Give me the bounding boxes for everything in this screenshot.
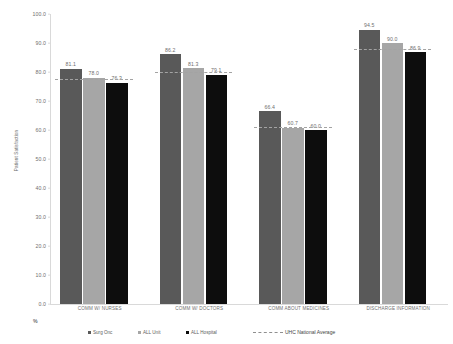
legend-color-swatch (138, 331, 141, 334)
plot-area: 81.178.076.386.281.379.166.460.760.094.5… (50, 14, 448, 304)
bar (259, 111, 281, 304)
bar-group: 81.178.076.3 (50, 14, 150, 304)
bar-chart: Patient Satisfaction 0.010.020.030.040.0… (0, 0, 453, 344)
national-average-reference-line (55, 79, 133, 80)
bar-value-label: 90.0 (378, 36, 408, 42)
bar-value-label: 94.5 (355, 22, 385, 28)
bar-group: 94.590.086.9 (349, 14, 449, 304)
y-axis-tick-label: 10.0 (20, 272, 46, 278)
bar (160, 54, 182, 304)
bar-value-label: 81.3 (179, 61, 209, 67)
x-axis-category-label: COMM W/ DOCTORS (150, 306, 250, 311)
x-axis-category-label: COMM W/ NURSES (50, 306, 150, 311)
national-average-reference-line (254, 127, 332, 128)
bar (60, 69, 82, 304)
legend-label: UHC National Average (285, 329, 335, 335)
national-average-reference-line (155, 72, 233, 73)
bar (382, 43, 404, 304)
x-axis-category-label: DISCHARGE INFORMATION (349, 306, 449, 311)
y-axis-tick-label: 40.0 (20, 185, 46, 191)
bar-value-label: 66.4 (255, 104, 285, 110)
y-axis-tick-label: 20.0 (20, 243, 46, 249)
y-axis-tick-label: 70.0 (20, 98, 46, 104)
bar-group: 86.281.379.1 (150, 14, 250, 304)
bar (183, 68, 205, 304)
y-axis-tick-label: 60.0 (20, 127, 46, 133)
y-axis-tick-label: 90.0 (20, 40, 46, 46)
y-axis-tick-label: 50.0 (20, 156, 46, 162)
bar (206, 75, 228, 304)
bar-value-label: 86.2 (156, 47, 186, 53)
bar (405, 52, 427, 304)
bar-group: 66.460.760.0 (249, 14, 349, 304)
y-axis-tick-label: 100.0 (20, 11, 46, 17)
legend-dashed-line-swatch (253, 332, 283, 333)
bar-value-label: 81.1 (56, 61, 86, 67)
legend-item-national-average[interactable]: UHC National Average (253, 329, 335, 335)
bar (106, 83, 128, 304)
percent-unit-marker: % (33, 318, 38, 324)
legend-item[interactable]: ALL Hospital (186, 330, 217, 335)
national-average-reference-line (354, 49, 432, 50)
legend-item[interactable]: ALL Unit (138, 330, 160, 335)
legend-color-swatch (88, 331, 91, 334)
legend-color-swatch (186, 331, 189, 334)
legend-label: ALL Unit (143, 330, 160, 335)
legend-item[interactable]: Surg Onc (88, 330, 112, 335)
bar (305, 130, 327, 304)
legend-label: Surg Onc (93, 330, 112, 335)
y-axis-tick-label: 30.0 (20, 214, 46, 220)
bar (83, 78, 105, 304)
chart-legend: Surg OncALL UnitALL HospitalUHC National… (50, 327, 448, 339)
bar (282, 128, 304, 304)
y-axis-tick-label: 80.0 (20, 69, 46, 75)
legend-label: ALL Hospital (191, 330, 217, 335)
x-axis-category-label: COMM ABOUT MEDICINES (249, 306, 349, 311)
bar (359, 30, 381, 304)
y-axis-tick-label: 0.0 (20, 301, 46, 307)
